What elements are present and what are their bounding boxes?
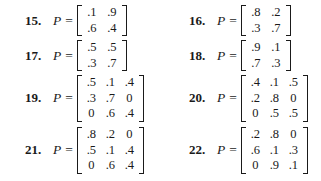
matrix-cell: .6	[101, 158, 120, 174]
transition-matrix: .9 .1 .7 .3	[241, 40, 291, 71]
matrix-variable: P	[53, 13, 61, 29]
problem-number: 16.	[189, 13, 211, 29]
matrix-variable: P	[53, 48, 61, 64]
transition-matrix: .8 .2 .3 .7	[241, 5, 291, 36]
transition-matrix: .5 .5 .3 .7	[77, 40, 127, 71]
matrix-cell: .7	[266, 21, 286, 37]
matrix-cell: .2	[246, 127, 265, 143]
equals-sign: =	[229, 90, 237, 106]
matrix-cell: .3	[82, 56, 102, 72]
matrix-cell: .1	[265, 75, 284, 91]
matrix-cell: .1	[265, 143, 284, 159]
problem-17: 17. P = .5 .5 .3 .7	[25, 40, 127, 71]
matrix-cell: .5	[82, 143, 101, 159]
problem-21: 21. P = .8 .2 0 .5 .1 .4 0 .6 .4	[25, 127, 144, 174]
equals-sign: =	[229, 13, 237, 29]
matrix-cell: .5	[265, 106, 284, 122]
problem-number: 22.	[189, 142, 211, 158]
problem-number: 18.	[189, 48, 211, 64]
matrix-cell: .5	[284, 75, 303, 91]
transition-matrix: .5 .1 .4 .3 .7 0 0 .6 .4	[77, 75, 144, 122]
matrix-cell: .5	[102, 40, 122, 56]
matrix-cell: .1	[266, 40, 286, 56]
equals-sign: =	[229, 142, 237, 158]
matrix-cell: .3	[82, 91, 101, 107]
matrix-cell: 0	[246, 158, 265, 174]
matrix-cell: .9	[265, 158, 284, 174]
matrix-cell: .4	[102, 21, 122, 37]
matrix-cell: .5	[284, 106, 303, 122]
problem-22: 22. P = .2 .8 0 .6 .1 .3 0 .9 .1	[189, 127, 308, 174]
matrix-cell: .8	[265, 127, 284, 143]
matrix-cell: .6	[82, 21, 102, 37]
matrix-variable: P	[217, 142, 225, 158]
matrix-cell: 0	[120, 127, 139, 143]
matrix-cell: .2	[101, 127, 120, 143]
matrix-cell: .2	[266, 5, 286, 21]
problem-16: 16. P = .8 .2 .3 .7	[189, 5, 291, 36]
matrix-cell: 0	[284, 91, 303, 107]
matrix-cell: .8	[265, 91, 284, 107]
problem-number: 15.	[25, 13, 47, 29]
matrix-cell: .7	[246, 56, 266, 72]
transition-matrix: .1 .9 .6 .4	[77, 5, 127, 36]
problem-20: 20. P = .4 .1 .5 .2 .8 0 0 .5 .5	[189, 75, 308, 122]
equals-sign: =	[229, 48, 237, 64]
matrix-cell: .8	[82, 127, 101, 143]
matrix-cell: .4	[246, 75, 265, 91]
equals-sign: =	[65, 13, 73, 29]
equals-sign: =	[65, 48, 73, 64]
matrix-variable: P	[217, 13, 225, 29]
matrix-cell: 0	[246, 106, 265, 122]
matrix-cell: .1	[101, 75, 120, 91]
matrix-variable: P	[217, 48, 225, 64]
equals-sign: =	[65, 90, 73, 106]
matrix-cell: .3	[246, 21, 266, 37]
matrix-cell: .6	[246, 143, 265, 159]
matrix-cell: .4	[120, 106, 139, 122]
problem-number: 20.	[189, 90, 211, 106]
problem-number: 19.	[25, 90, 47, 106]
matrix-cell: .1	[101, 143, 120, 159]
matrix-cell: .4	[120, 143, 139, 159]
problem-19: 19. P = .5 .1 .4 .3 .7 0 0 .6 .4	[25, 75, 144, 122]
matrix-cell: .9	[102, 5, 122, 21]
matrix-cell: .1	[82, 5, 102, 21]
matrix-variable: P	[53, 142, 61, 158]
matrix-cell: .4	[120, 75, 139, 91]
matrix-cell: .6	[101, 106, 120, 122]
matrix-variable: P	[53, 90, 61, 106]
matrix-cell: 0	[82, 158, 101, 174]
problem-15: 15. P = .1 .9 .6 .4	[25, 5, 127, 36]
matrix-cell: .7	[102, 56, 122, 72]
matrix-cell: .9	[246, 40, 266, 56]
transition-matrix: .8 .2 0 .5 .1 .4 0 .6 .4	[77, 127, 144, 174]
matrix-cell: .5	[82, 75, 101, 91]
matrix-cell: .1	[284, 158, 303, 174]
matrix-cell: .5	[82, 40, 102, 56]
matrix-cell: .3	[266, 56, 286, 72]
equals-sign: =	[65, 142, 73, 158]
matrix-cell: .8	[246, 5, 266, 21]
matrix-variable: P	[217, 90, 225, 106]
matrix-cell: 0	[82, 106, 101, 122]
matrix-cell: 0	[284, 127, 303, 143]
problem-18: 18. P = .9 .1 .7 .3	[189, 40, 291, 71]
matrix-cell: .4	[120, 158, 139, 174]
matrix-cell: .7	[101, 91, 120, 107]
transition-matrix: .2 .8 0 .6 .1 .3 0 .9 .1	[241, 127, 308, 174]
problem-number: 17.	[25, 48, 47, 64]
problem-number: 21.	[25, 142, 47, 158]
transition-matrix: .4 .1 .5 .2 .8 0 0 .5 .5	[241, 75, 308, 122]
matrix-cell: .2	[246, 91, 265, 107]
matrix-cell: 0	[120, 91, 139, 107]
matrix-cell: .3	[284, 143, 303, 159]
